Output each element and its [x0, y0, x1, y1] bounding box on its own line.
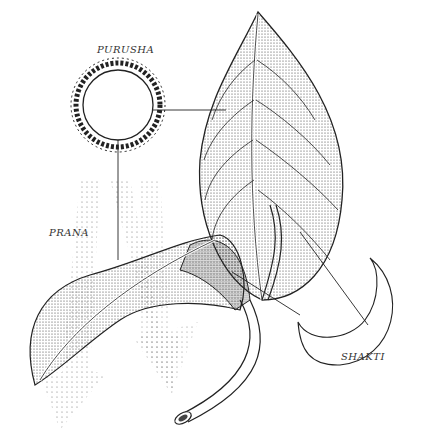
diagram-canvas: [0, 0, 423, 437]
label-purusha: PURUSHA: [97, 44, 154, 55]
sun: [71, 58, 165, 152]
label-shakti: SHAKTI: [341, 351, 385, 362]
label-prana: PRANA: [49, 227, 89, 238]
